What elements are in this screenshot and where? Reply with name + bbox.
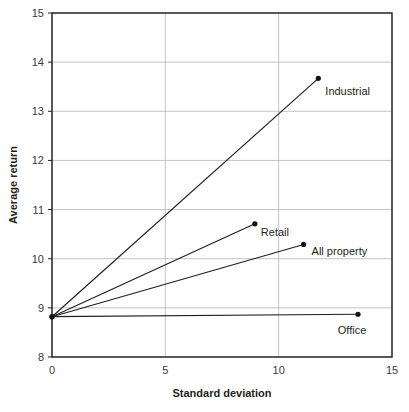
y-tick-label: 14 <box>32 56 44 68</box>
series-label: Industrial <box>325 85 370 97</box>
data-point <box>355 312 360 317</box>
y-tick-label: 10 <box>32 253 44 265</box>
x-tick-label: 15 <box>386 364 398 376</box>
risk-return-chart: 89101112131415051015 IndustrialRetailAll… <box>0 0 409 412</box>
axes <box>48 13 392 357</box>
origin-point <box>49 314 55 320</box>
series-label: All property <box>312 245 368 257</box>
plot-frame <box>52 13 392 357</box>
series-label: Retail <box>261 226 289 238</box>
y-tick-label: 15 <box>32 7 44 19</box>
y-tick-label: 9 <box>38 302 44 314</box>
y-axis-title: Average return <box>7 146 19 224</box>
x-tick-label: 10 <box>273 364 285 376</box>
y-tick-label: 12 <box>32 154 44 166</box>
grid-lines <box>52 13 392 357</box>
y-tick-label: 8 <box>38 351 44 363</box>
series-line-all-property <box>52 244 304 316</box>
data-series: IndustrialRetailAll propertyOffice <box>49 76 370 336</box>
series-line-office <box>52 314 358 316</box>
data-point <box>252 221 257 226</box>
x-axis-title: Standard deviation <box>172 387 271 399</box>
series-label: Office <box>338 324 367 336</box>
y-tick-label: 11 <box>33 204 44 216</box>
x-tick-label: 0 <box>49 364 55 376</box>
series-line-retail <box>52 224 255 317</box>
x-tick-label: 5 <box>162 364 168 376</box>
data-point <box>316 76 321 81</box>
data-point <box>301 242 306 247</box>
y-tick-label: 13 <box>32 105 44 117</box>
